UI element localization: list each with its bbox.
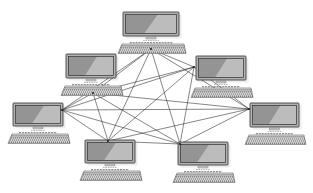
connection-port — [92, 92, 94, 94]
monitor-icon — [13, 103, 63, 129]
computer-node — [245, 103, 306, 145]
mesh-edge — [62, 110, 180, 144]
computer-node — [61, 54, 123, 96]
keyboard-icon — [245, 135, 306, 145]
monitor-stand — [270, 128, 280, 130]
computer-node — [80, 140, 142, 181]
monitor-icon — [123, 12, 179, 39]
monitor-stand — [216, 81, 226, 83]
connection-port — [61, 109, 63, 111]
monitor-stand — [86, 79, 96, 81]
monitor-icon — [196, 56, 246, 83]
mesh-edge — [108, 109, 249, 141]
mesh-topology-diagram — [0, 0, 313, 193]
connection-port — [248, 108, 250, 110]
monitor-stand — [33, 127, 43, 129]
connection-port — [193, 66, 195, 68]
keyboard-icon — [80, 171, 142, 181]
keyboard-icon — [8, 134, 70, 144]
computer-node — [118, 12, 186, 54]
monitor-stand — [198, 166, 208, 168]
monitor-stand — [105, 164, 115, 166]
mesh-edge — [180, 67, 194, 144]
monitor-icon — [66, 54, 116, 81]
keyboard-icon — [191, 88, 253, 98]
connection-port — [107, 140, 109, 142]
mesh-edge — [62, 109, 249, 110]
computer-node — [191, 56, 253, 98]
connection-port — [150, 48, 152, 50]
diagram-canvas — [0, 0, 313, 193]
monitor-icon — [85, 140, 135, 166]
connection-port — [179, 143, 181, 145]
computer-node — [173, 142, 235, 183]
monitor-stand — [146, 37, 156, 39]
keyboard-icon — [61, 86, 123, 96]
monitor-icon — [250, 103, 299, 130]
mesh-edge — [180, 109, 249, 144]
monitor-icon — [178, 142, 228, 168]
computer-node — [8, 103, 70, 144]
keyboard-icon — [173, 173, 235, 183]
mesh-edge — [62, 110, 108, 141]
